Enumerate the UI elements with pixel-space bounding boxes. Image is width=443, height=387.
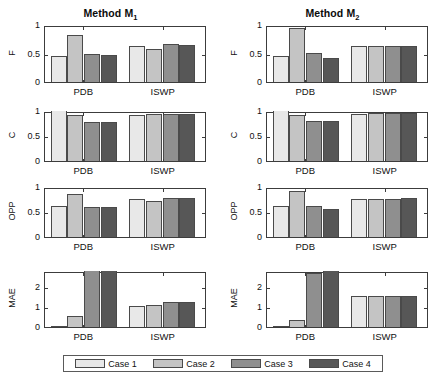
bar [385,296,401,327]
legend-entry: Case 2 [153,359,215,369]
y-tick-label: 1 [236,302,262,312]
y-tick-label: 2 [236,282,262,292]
legend: Case 1Case 2Case 3Case 4 [63,355,383,372]
bar [351,296,367,327]
plot-area [266,272,428,328]
x-tick-mark [385,325,386,328]
legend-entry: Case 1 [75,359,137,369]
legend-swatch [309,359,339,368]
figure-canvas: Method M1 Method M2 00.51FPDBISWP00.51CP… [0,0,443,387]
legend-label: Case 2 [186,359,215,369]
x-tick-mark [305,273,306,276]
x-group-label: ISWP [357,331,413,342]
x-tick-mark [305,325,306,328]
y-tick-mark [424,308,427,309]
x-tick-mark [385,273,386,276]
legend-swatch [231,359,261,368]
y-tick-label: 0 [236,322,262,332]
y-tick-mark [267,288,270,289]
legend-label: Case 4 [342,359,371,369]
x-group-label: PDB [277,331,333,342]
bar [323,271,339,327]
bar [306,273,322,327]
legend-label: Case 1 [108,359,137,369]
y-tick-mark [424,288,427,289]
legend-swatch [75,359,105,368]
legend-label: Case 3 [264,359,293,369]
bar [368,296,384,327]
y-axis-label: MAE [229,275,239,321]
bar [401,296,417,327]
y-tick-mark [267,308,270,309]
legend-entry: Case 4 [309,359,371,369]
subplot-m2-mae: 012MAEPDBISWP [0,0,443,340]
bar [289,320,305,327]
legend-entry: Case 3 [231,359,293,369]
bars-layer [267,273,427,327]
bar [273,326,289,327]
legend-swatch [153,359,183,368]
